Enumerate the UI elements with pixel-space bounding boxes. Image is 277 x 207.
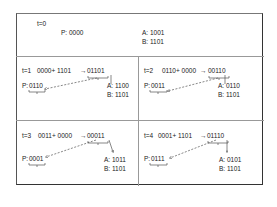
b-register: B: 1101 (218, 91, 240, 99)
time-label: t=0 (37, 20, 46, 28)
time-label: t=3 (22, 132, 31, 140)
a-register: A: 1011 (104, 156, 126, 164)
b-register: B: 1101 (104, 165, 126, 173)
arrow-icon: → (200, 132, 207, 140)
equation: 0001+ 1101 (158, 132, 192, 140)
divider-vertical (138, 56, 139, 186)
equation: 0011+ 0000 (38, 132, 72, 140)
sum-result: 00011 (87, 132, 105, 140)
arrow-icon: → (80, 132, 87, 140)
equation: 0000+ 1101 (37, 67, 71, 75)
equation: 0110+ 0000 (162, 67, 196, 75)
time-label: t=2 (144, 67, 153, 75)
time-label: t=1 (22, 67, 31, 75)
sum-result: 00110 (208, 67, 226, 75)
p-register: P: 0000 (61, 29, 83, 37)
divider-middle (16, 120, 264, 121)
a-register: A: 1100 (107, 82, 129, 90)
p-prefix: P: (22, 155, 28, 163)
a-register: A: 0110 (218, 82, 240, 90)
b-register: B: 1101 (219, 165, 241, 173)
sum-result: 01101 (87, 67, 105, 75)
a-register: A: 1001 (142, 29, 164, 37)
p-value: 0111 (151, 155, 165, 163)
sum-result: 01110 (207, 132, 224, 140)
p-prefix: P: (22, 82, 28, 90)
p-prefix: P: (144, 155, 150, 163)
p-value: 0011 (151, 82, 165, 90)
arrow-icon: → (200, 67, 207, 75)
arrow-icon: → (80, 67, 87, 75)
time-label: t=4 (144, 132, 153, 140)
p-prefix: P: (144, 82, 150, 90)
b-register: B: 1101 (142, 38, 164, 46)
divider-top (16, 56, 264, 57)
p-value: 0001 (29, 155, 43, 163)
a-register: A: 0101 (219, 156, 241, 164)
p-value: 0110 (29, 82, 43, 90)
b-register: B: 1101 (107, 91, 129, 99)
